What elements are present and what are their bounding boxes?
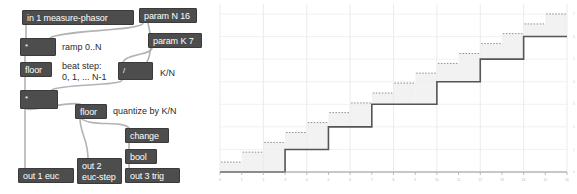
pd-comment-quantize: quantize by K/N (113, 106, 177, 117)
svg-text:5: 5 (573, 57, 575, 61)
pd-object-multiply-2[interactable]: * (20, 90, 58, 109)
svg-text:4: 4 (573, 80, 575, 84)
svg-text:1: 1 (241, 178, 243, 182)
pd-object-param-k[interactable]: param K 7 (148, 33, 202, 48)
pd-object-divide[interactable]: / (118, 62, 153, 80)
pd-object-multiply-1[interactable]: * (20, 38, 56, 56)
svg-text:4: 4 (306, 178, 308, 182)
svg-text:15: 15 (544, 178, 548, 182)
svg-text:10: 10 (435, 178, 439, 182)
svg-text:0: 0 (219, 178, 221, 182)
screenshot-root: in 1 measure-phasor param N 16 param K 7… (0, 0, 577, 194)
pd-object-floor-1[interactable]: floor (20, 62, 52, 77)
svg-text:5: 5 (328, 178, 330, 182)
svg-text:6: 6 (349, 178, 351, 182)
svg-text:14: 14 (522, 178, 526, 182)
pd-object-param-n[interactable]: param N 16 (139, 8, 197, 23)
step-function-plot: 01234567891011121314151601234567 (215, 0, 577, 194)
svg-text:3: 3 (284, 178, 286, 182)
pd-comment-ramp: ramp 0..N (62, 42, 102, 53)
svg-text:3: 3 (573, 102, 575, 106)
svg-text:12: 12 (478, 178, 482, 182)
pd-object-out2-euc-step[interactable]: out 2 euc-step (77, 158, 122, 184)
svg-text:2: 2 (573, 125, 575, 129)
pd-comment-beat-step: beat step: 0, 1, ... N-1 (62, 61, 107, 82)
pd-patch-canvas[interactable]: in 1 measure-phasor param N 16 param K 7… (0, 0, 215, 194)
svg-text:2: 2 (262, 178, 264, 182)
svg-text:16: 16 (565, 178, 569, 182)
svg-text:13: 13 (500, 178, 504, 182)
pd-comment-k-over-n: K/N (160, 68, 175, 79)
svg-text:7: 7 (371, 178, 373, 182)
pd-object-bool[interactable]: bool (125, 149, 157, 164)
svg-text:1: 1 (573, 148, 575, 152)
pd-object-in1[interactable]: in 1 measure-phasor (22, 10, 134, 25)
svg-text:0: 0 (573, 170, 575, 174)
svg-text:7: 7 (573, 12, 575, 16)
pd-object-floor-2[interactable]: floor (75, 104, 107, 119)
pd-object-change[interactable]: change (125, 128, 169, 143)
pd-object-out1-euc[interactable]: out 1 euc (18, 168, 74, 183)
svg-text:11: 11 (457, 178, 461, 182)
svg-text:8: 8 (393, 178, 395, 182)
svg-text:6: 6 (573, 35, 575, 39)
svg-text:9: 9 (414, 178, 416, 182)
plot-svg: 01234567891011121314151601234567 (215, 0, 577, 194)
pd-object-out3-trig[interactable]: out 3 trig (125, 168, 180, 183)
